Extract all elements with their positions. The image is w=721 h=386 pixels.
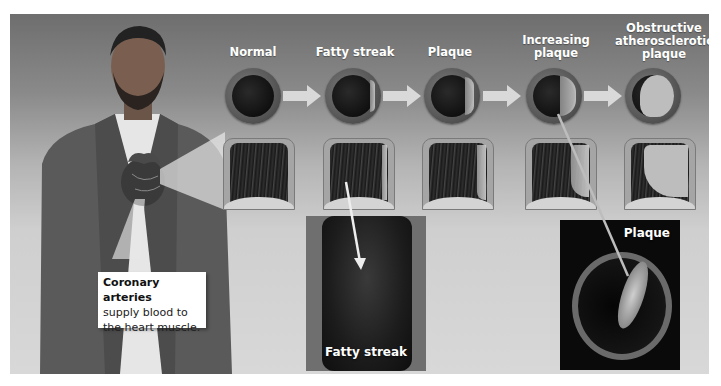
coronary-arteries-callout: Coronary arteries supply blood to the he… — [98, 272, 206, 328]
pointer-line-fatty-streak — [346, 182, 360, 262]
callout-body-line2: the heart muscle. — [103, 320, 201, 335]
atherosclerosis-figure-panel: Normal Fatty streak Plaque Increasing pl… — [10, 14, 709, 374]
pointer-line-plaque — [558, 114, 628, 276]
callout-title: Coronary arteries — [103, 275, 201, 305]
callout-body-line1: supply blood to — [103, 305, 201, 320]
pointer-arrowhead — [354, 258, 366, 270]
